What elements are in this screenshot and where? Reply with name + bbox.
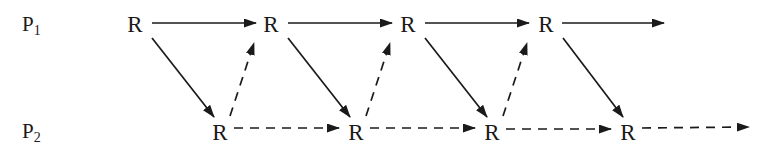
node-r-p2-1: R [212,120,228,145]
process-label-p2: P2 [22,119,41,145]
process-label-p2-subscript: 2 [34,130,41,145]
node-r-p1-1: R [127,12,143,37]
edge-sync-p2r2-p1r3 [366,43,390,116]
diagram-canvas: RRRRRRRR P1P2 [0,0,777,157]
process-label-p1: P1 [22,12,41,38]
process-labels-layer: P1P2 [22,12,41,145]
node-r-p2-3: R [484,120,500,145]
nodes-layer: RRRRRRRR [127,12,636,145]
edge-p2-r4-onward [642,127,749,128]
node-r-p1-2: R [263,12,279,37]
node-r-p1-4: R [538,12,554,37]
edge-sync-p1r1-p2r1 [152,38,214,117]
edge-sync-p1r2-p2r2 [288,38,350,117]
edge-sync-p2r1-p1r2 [230,43,254,116]
node-r-p2-2: R [348,120,364,145]
rendezvous-diagram: RRRRRRRR P1P2 [0,0,777,157]
edge-sync-p1r4-p2r4 [563,38,623,117]
node-r-p2-4: R [620,120,636,145]
process-label-p1-subscript: 1 [34,23,41,38]
edge-sync-p2r3-p1r4 [503,43,527,116]
edges-layer [152,23,749,129]
edge-sync-p1r3-p2r3 [425,38,487,117]
node-r-p1-3: R [400,12,416,37]
